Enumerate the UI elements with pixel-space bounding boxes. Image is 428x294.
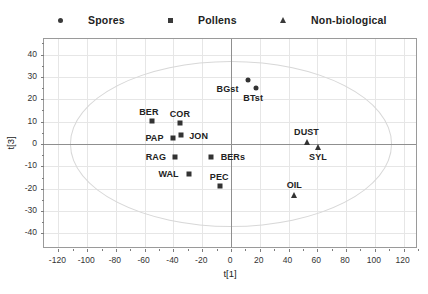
data-point-label-rag: RAG	[146, 152, 166, 162]
x-tick-label: -100	[78, 255, 95, 265]
y-tick-minor	[42, 222, 44, 223]
y-tick-minor	[42, 43, 44, 44]
gridline-horizontal	[44, 55, 416, 56]
y-tick-label: 30	[15, 71, 37, 81]
x-tick-minor	[389, 249, 390, 251]
data-point-label-oil: OIL	[287, 180, 302, 190]
x-axis-title: t[1]	[43, 268, 417, 279]
x-tick-label: -40	[166, 255, 178, 265]
y-tick-label: 40	[15, 49, 37, 59]
y-tick	[41, 144, 44, 145]
legend-label: Pollens	[198, 14, 237, 26]
x-tick-minor	[303, 249, 304, 251]
y-axis-title: t[3]	[5, 136, 16, 149]
y-tick-label: 20	[15, 93, 37, 103]
data-point-bgst[interactable]	[245, 78, 250, 83]
x-tick	[375, 249, 376, 252]
y-tick-label: 0	[15, 138, 37, 148]
gridline-vertical	[346, 39, 347, 247]
gridline-vertical	[289, 39, 290, 247]
x-tick-minor	[332, 249, 333, 251]
x-tick-minor	[130, 249, 131, 251]
square-marker-icon	[168, 18, 173, 23]
x-tick	[202, 249, 203, 252]
x-tick	[116, 249, 117, 252]
x-tick	[346, 249, 347, 252]
data-point-label-pap: PAP	[145, 133, 163, 143]
y-tick	[41, 166, 44, 167]
x-tick-minor	[188, 249, 189, 251]
data-point-rag[interactable]	[172, 155, 177, 160]
y-tick	[41, 77, 44, 78]
x-tick-minor	[217, 249, 218, 251]
y-tick-label: -10	[15, 160, 37, 170]
gridline-vertical	[404, 39, 405, 247]
data-point-ber[interactable]	[149, 118, 154, 123]
y-tick-label: -30	[15, 205, 37, 215]
data-point-pec[interactable]	[218, 184, 223, 189]
x-tick-minor	[418, 249, 419, 251]
data-point-label-wal: WAL	[158, 169, 178, 179]
gridline-horizontal	[44, 122, 416, 123]
x-tick-label: 80	[340, 255, 349, 265]
legend-label: Spores	[88, 14, 125, 26]
gridline-horizontal	[44, 99, 416, 100]
y-tick	[41, 99, 44, 100]
data-point-cor[interactable]	[177, 120, 182, 125]
x-tick-label: -60	[138, 255, 150, 265]
x-tick	[231, 249, 232, 252]
data-point-jon[interactable]	[178, 133, 183, 138]
data-point-label-dust: DUST	[294, 127, 319, 137]
data-point-bers[interactable]	[208, 155, 213, 160]
x-tick-minor	[245, 249, 246, 251]
data-point-pap[interactable]	[171, 136, 176, 141]
y-tick	[41, 233, 44, 234]
triangle-marker-icon	[280, 17, 286, 23]
gridline-vertical	[116, 39, 117, 247]
y-tick-minor	[42, 110, 44, 111]
x-tick	[317, 249, 318, 252]
x-tick-minor	[73, 249, 74, 251]
gridline-vertical	[87, 39, 88, 247]
plot-area: BGstBTstBERCORPAPJONRAGBERsWALPECDUSTSYL…	[43, 38, 417, 248]
legend-entry-spores[interactable]: Spores	[58, 14, 125, 26]
x-tick-label: -120	[49, 255, 66, 265]
x-tick	[145, 249, 146, 252]
data-point-label-bers: BERs	[221, 152, 245, 162]
legend-entry-non-biological[interactable]: Non-biological	[280, 14, 387, 26]
x-tick-label: -80	[109, 255, 121, 265]
gridline-horizontal	[44, 189, 416, 190]
x-tick	[87, 249, 88, 252]
x-tick-minor	[274, 249, 275, 251]
data-point-label-btst: BTst	[243, 93, 263, 103]
x-tick-label: 20	[254, 255, 263, 265]
gridline-horizontal	[44, 77, 416, 78]
x-tick	[289, 249, 290, 252]
data-point-dust[interactable]	[304, 139, 310, 145]
y-tick-label: -40	[15, 227, 37, 237]
data-point-oil[interactable]	[291, 192, 297, 198]
data-point-label-ber: BER	[139, 107, 158, 117]
data-point-wal[interactable]	[186, 172, 191, 177]
x-axis-zero-line	[44, 144, 416, 145]
y-axis-zero-line	[231, 39, 232, 247]
gridline-vertical	[173, 39, 174, 247]
gridline-horizontal	[44, 211, 416, 212]
data-point-btst[interactable]	[254, 86, 259, 91]
x-tick-minor	[360, 249, 361, 251]
x-tick-label: -20	[195, 255, 207, 265]
x-tick-label: 100	[367, 255, 381, 265]
legend-label: Non-biological	[311, 14, 387, 26]
x-tick-minor	[159, 249, 160, 251]
y-tick-minor	[42, 88, 44, 89]
data-point-syl[interactable]	[315, 144, 321, 150]
data-point-label-syl: SYL	[309, 152, 327, 162]
y-tick	[41, 122, 44, 123]
y-tick	[41, 55, 44, 56]
x-tick-label: 0	[228, 255, 233, 265]
legend-entry-pollens[interactable]: Pollens	[168, 14, 237, 26]
x-tick-minor	[102, 249, 103, 251]
y-tick-minor	[42, 133, 44, 134]
chart-legend: SporesPollensNon-biological	[0, 10, 428, 34]
x-tick	[173, 249, 174, 252]
